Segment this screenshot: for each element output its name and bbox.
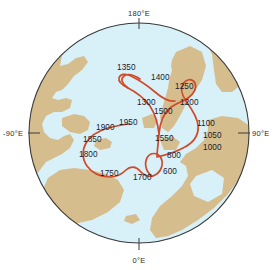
year-label-1100: 1100 xyxy=(197,119,215,128)
year-label-1850: 1850 xyxy=(83,135,102,144)
year-label-1500: 1500 xyxy=(154,107,173,116)
map-svg: 600 800 1000 1050 1100 1200 1250 1300 13… xyxy=(0,0,278,270)
year-label-1750: 1750 xyxy=(100,169,119,178)
year-label-1900: 1900 xyxy=(96,123,115,132)
year-label-800: 800 xyxy=(167,151,181,160)
year-label-1800: 1800 xyxy=(79,150,98,159)
year-label-1050: 1050 xyxy=(203,131,222,140)
year-label-1550: 1550 xyxy=(155,134,174,143)
year-label-1950: 1950 xyxy=(119,118,138,127)
year-label-1400: 1400 xyxy=(151,73,170,82)
axis-label-left: -90°E xyxy=(3,129,23,138)
year-label-1200: 1200 xyxy=(180,98,199,107)
axis-label-top: 180°E xyxy=(128,9,150,18)
axis-label-bottom: 0°E xyxy=(132,256,145,265)
polar-map-figure: 600 800 1000 1050 1100 1200 1250 1300 13… xyxy=(0,0,278,270)
year-label-1300: 1300 xyxy=(137,98,156,107)
axis-label-right: 90°E xyxy=(252,129,270,138)
year-label-600: 600 xyxy=(163,167,177,176)
year-label-1350: 1350 xyxy=(117,63,136,72)
year-label-1250: 1250 xyxy=(175,82,194,91)
year-label-1700: 1700 xyxy=(133,173,152,182)
land-isles-southwest xyxy=(28,198,44,212)
year-label-1000: 1000 xyxy=(203,143,222,152)
